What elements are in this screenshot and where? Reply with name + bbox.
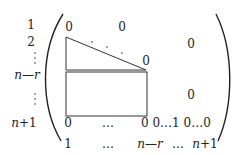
- entry-bottom-first-zero: 0: [64, 116, 72, 130]
- matrix-diagram: 1 2 n—r n+1 0 0 0 0 0 0 … 0 0…1 0…0 1 … …: [0, 0, 241, 155]
- entry-bottom-ellipsis: …: [102, 116, 114, 130]
- row-vdots-upper: [34, 52, 36, 64]
- row-label-2: 2: [27, 35, 35, 49]
- entry-top-mid-zero: 0: [118, 20, 126, 34]
- row-label-1: 1: [27, 18, 35, 32]
- matrix-figure: 1 2 n—r n+1 0 0 0 0 0 0 … 0 0…1 0…0 1 … …: [0, 0, 241, 155]
- row-label-n-minus-r: n—r: [14, 68, 41, 82]
- entry-right-upper-zero: 0: [187, 37, 195, 51]
- right-parenthesis: [216, 14, 230, 141]
- diagonal-dots: [91, 41, 123, 54]
- col-label-n-plus-1: n+1: [192, 137, 217, 151]
- col-label-n-minus-r: n—r: [137, 137, 164, 151]
- rectangle-block: [66, 72, 147, 116]
- col-label-ellipsis-1: …: [102, 137, 114, 151]
- entry-top-left-zero: 0: [65, 20, 73, 34]
- triangle-block: [66, 37, 146, 70]
- row-vdots-lower: [34, 93, 36, 105]
- entry-right-lower-zero: 0: [187, 88, 195, 102]
- row-label-n-plus-1: n+1: [11, 116, 36, 130]
- entry-diag-end-zero: 0: [142, 54, 150, 68]
- col-label-1: 1: [64, 137, 72, 151]
- entry-bottom-tail: 0 0…1 0…0: [141, 116, 211, 130]
- left-parenthesis: [45, 14, 63, 141]
- col-label-ellipsis-2: …: [172, 137, 184, 151]
